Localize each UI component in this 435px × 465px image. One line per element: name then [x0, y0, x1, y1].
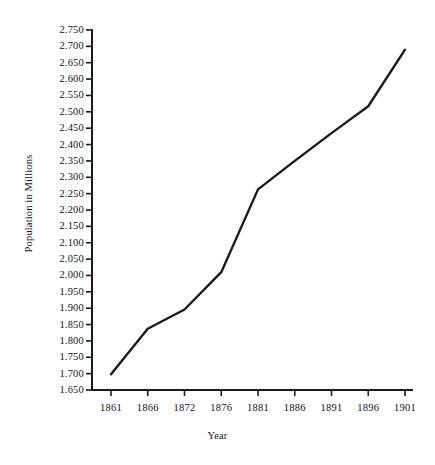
plot-area [0, 0, 435, 465]
population-line-chart: Population in Millions 2.7502.7002.6502.… [0, 0, 435, 465]
x-tick-label: 1901 [375, 402, 435, 414]
axis-spine [92, 30, 412, 390]
x-axis-title: Year [0, 430, 435, 441]
axis-lines [92, 30, 412, 390]
series-polyline [111, 50, 405, 375]
x-axis-tick-labels: 186118661872187618811886189118961901 [0, 402, 435, 420]
data-series-line [111, 50, 405, 375]
